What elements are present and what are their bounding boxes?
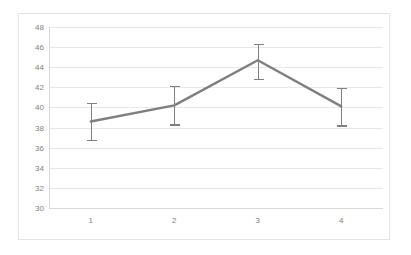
y-axis-tick-label: 36 [35,144,44,153]
x-axis-tick-label: 2 [172,216,177,225]
y-axis-tick-label: 38 [35,124,44,133]
y-axis-tick-label: 42 [35,83,44,92]
chart-figure: 303234363840424446481234 [18,13,390,240]
x-axis-tick-label: 3 [256,216,261,225]
y-axis-tick-label: 46 [35,43,44,52]
y-axis-tick-label: 40 [35,103,44,112]
x-axis-tick-label: 4 [339,216,344,225]
x-axis-tick-label: 1 [89,216,94,225]
y-axis-tick-label: 44 [35,63,44,72]
y-axis-tick-label: 34 [35,164,44,173]
plot-background [49,27,383,208]
y-axis-tick-label: 48 [35,23,44,32]
line-chart-plot: 303234363840424446481234 [19,14,391,241]
y-axis-tick-label: 32 [35,184,44,193]
y-axis-tick-label: 30 [35,204,44,213]
